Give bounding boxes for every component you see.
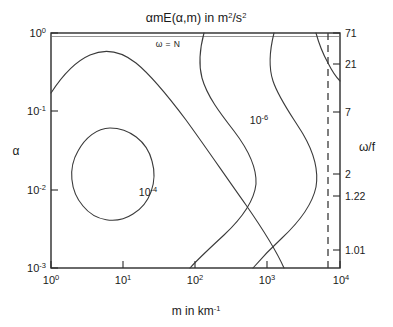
- x-tick-label-0: 100: [43, 273, 59, 286]
- right-tick-label-2: 7: [345, 106, 351, 118]
- right-tick-label-3: 2: [345, 168, 351, 180]
- right-axis-label: ω/f: [359, 140, 376, 154]
- contour-10e-4-outer-branch: [190, 33, 256, 268]
- plot-frame: [51, 33, 340, 268]
- right-tick-label-5: 1.01: [345, 244, 366, 256]
- y-tick-label-3: 10-3: [27, 261, 46, 274]
- y-axis-label: α: [13, 144, 20, 158]
- x-tick-label-3: 103: [259, 273, 275, 286]
- right-tick-label-4: 1.22: [345, 190, 366, 202]
- contour-plot-figure: αmE(α,m) in m2/s2 100 101 102 103 104 m …: [0, 0, 393, 327]
- x-axis-label: m in km-1: [172, 304, 221, 318]
- x-tick-label-4: 104: [333, 273, 349, 286]
- y-tick-label-0: 100: [30, 26, 46, 39]
- y-tick-label-2: 10-2: [27, 183, 46, 196]
- x-axis-tick-labels: 100 101 102 103 104: [43, 273, 349, 286]
- contour-label-10e-4: 10-4: [139, 185, 157, 198]
- y-axis-tick-labels: 100 10-1 10-2 10-3: [27, 26, 46, 274]
- x-tick-label-2: 102: [187, 273, 203, 286]
- right-tick-label-0: 71: [345, 27, 357, 39]
- contour-label-10e-6: 10-6: [250, 113, 268, 126]
- contour-10e-6-branch: [253, 33, 317, 268]
- contour-10e-4-closed: [72, 128, 154, 220]
- y-axis-ticks: [51, 33, 58, 268]
- x-tick-label-1: 101: [115, 273, 131, 286]
- right-tick-label-1: 21: [345, 58, 357, 70]
- plot-title: αmE(α,m) in m2/s2: [146, 11, 247, 25]
- omega-equals-n-label: ω = N: [156, 39, 180, 49]
- right-axis-ticks: [333, 33, 340, 250]
- contour-arch-top-left: [51, 52, 284, 268]
- y-tick-label-1: 10-1: [27, 104, 46, 117]
